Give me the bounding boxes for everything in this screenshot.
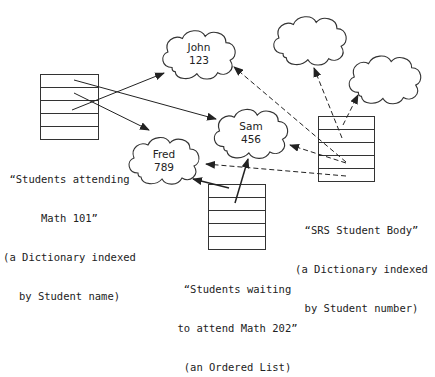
object-john-name: John [179, 41, 219, 54]
object-fred-name: Fred [144, 148, 184, 161]
caption-srs-line1: “SRS Student Body” [294, 224, 429, 237]
caption-math101-line4: by Student name) [2, 290, 137, 303]
caption-math101-line3: (a Dictionary indexed [2, 251, 137, 264]
object-john-label: John 123 [179, 41, 219, 67]
caption-srs-line3: by Student number) [294, 302, 429, 315]
caption-math202: “Students waiting to attend Math 202” (a… [170, 257, 305, 377]
caption-srs: “SRS Student Body” (a Dictionary indexed… [294, 198, 429, 328]
caption-math101-line2: Math 101” [2, 212, 137, 225]
object-sam-label: Sam 456 [231, 120, 271, 146]
caption-math101-line1: “Students attending [2, 173, 137, 186]
object-sam-number: 456 [231, 133, 271, 146]
caption-math202-line1: “Students waiting [170, 283, 305, 296]
collection-srs-table [319, 117, 375, 182]
object-sam-name: Sam [231, 120, 271, 133]
object-fred-label: Fred 789 [144, 148, 184, 174]
caption-math202-line3: (an Ordered List) [170, 361, 305, 374]
caption-math101: “Students attending Math 101” (a Diction… [2, 147, 137, 316]
object-anonymous-1 [274, 17, 346, 65]
object-anonymous-2 [349, 56, 421, 104]
caption-srs-line2: (a Dictionary indexed [294, 263, 429, 276]
object-fred-number: 789 [144, 161, 184, 174]
caption-math202-line2: to attend Math 202” [170, 322, 305, 335]
object-john-number: 123 [179, 54, 219, 67]
